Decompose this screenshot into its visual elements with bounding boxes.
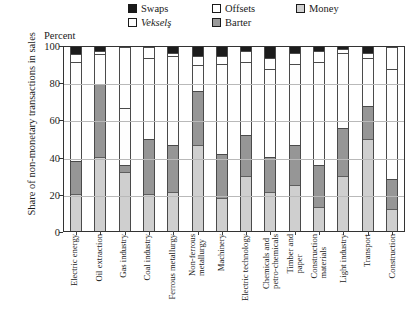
legend-item-barter: Barter [212, 16, 296, 29]
bar-segment-swaps [71, 47, 81, 54]
bar-segment-offsets [387, 47, 397, 69]
bar-slot [64, 47, 88, 231]
x-axis-category-label: Timber andpaper [286, 234, 305, 274]
grid-line [64, 196, 404, 197]
bar-segment-veksels [144, 58, 154, 139]
stacked-bar[interactable] [119, 47, 131, 231]
stacked-bar[interactable] [143, 47, 155, 231]
x-label-cell: Oil extraction [87, 234, 111, 322]
x-label-cell: Coal industry [136, 234, 160, 322]
x-axis-category-label: Constructionmaterials [310, 234, 329, 278]
bar-segment-veksels [387, 69, 397, 179]
bar-segment-veksels [168, 56, 178, 144]
bar-segment-money [363, 139, 373, 231]
x-axis-category-label: Ferrous metallurgy [168, 234, 177, 299]
legend-swatch-barter [212, 18, 221, 27]
x-axis-category-label: Transport [364, 234, 373, 267]
bar-segment-money [193, 145, 203, 231]
bar-segment-barter [120, 165, 130, 172]
x-label-cell: Constructionmaterials [307, 234, 331, 322]
legend-item-offsets: Offsets [212, 2, 296, 15]
bar-segment-veksels [241, 62, 251, 136]
x-label-cell: Electric energy [63, 234, 87, 322]
stacked-bar[interactable] [337, 47, 349, 231]
x-label-cell: Construction [380, 234, 404, 322]
legend-swatch-offsets [212, 4, 221, 13]
legend-row-2: Vekselş Barter [128, 16, 408, 29]
bar-segment-veksels [120, 108, 130, 165]
stacked-bar[interactable] [94, 47, 106, 231]
x-label-cell: Chemicals andpetro-chemicals [258, 234, 282, 322]
y-axis-tick-label: 100 [44, 41, 60, 52]
stacked-bar[interactable] [264, 47, 276, 231]
bar-segment-barter [144, 139, 154, 194]
bar-segment-swaps [265, 47, 275, 58]
x-axis-category-label: Oil extraction [95, 234, 104, 282]
bar-segment-offsets [290, 53, 300, 64]
x-axis-category-label: Gas industry [119, 234, 128, 278]
stacked-bar[interactable] [313, 47, 325, 231]
legend-label-veksels: Vekselş [141, 16, 171, 29]
x-axis-category-label-line: petro-chemicals [271, 234, 280, 289]
legend-swatch-money [296, 4, 305, 13]
bar-segment-veksels [95, 54, 105, 83]
bar-slot [355, 47, 379, 231]
bar-segment-money [168, 192, 178, 231]
bar-segment-veksels [193, 65, 203, 91]
bars-container [64, 47, 404, 231]
bar-slot [307, 47, 331, 231]
bar-segment-barter [338, 128, 348, 176]
stacked-bar[interactable] [386, 47, 398, 231]
x-label-cell: Electric technology [234, 234, 258, 322]
bar-segment-barter [387, 179, 397, 208]
x-axis-category-labels: Electric energyOil extractionGas industr… [63, 234, 405, 322]
legend-label-barter: Barter [225, 16, 251, 29]
stacked-bar[interactable] [240, 47, 252, 231]
x-axis-category-label: Construction [388, 234, 397, 278]
bar-segment-swaps [193, 47, 203, 56]
chart-legend: Swaps Offsets Money Vekselş Barter [128, 2, 408, 29]
plot-area [63, 46, 405, 232]
grid-line [64, 121, 404, 122]
x-axis-category-label-line: paper [295, 234, 304, 274]
y-axis-tick [59, 232, 63, 233]
bar-segment-offsets [265, 58, 275, 69]
bar-segment-offsets [144, 47, 154, 58]
bar-segment-barter [290, 145, 300, 185]
bar-segment-money [290, 185, 300, 231]
y-axis-tick [59, 195, 63, 196]
x-axis-category-label-line: metallurgy [197, 234, 206, 276]
legend-item-swaps: Swaps [128, 2, 212, 15]
stacked-bar[interactable] [362, 47, 374, 231]
bar-slot [283, 47, 307, 231]
grid-line [64, 159, 404, 160]
bar-segment-barter [241, 135, 251, 175]
bar-slot [88, 47, 112, 231]
bar-segment-veksels [314, 62, 324, 165]
bar-segment-barter [314, 165, 324, 207]
bar-segment-money [217, 198, 227, 231]
bar-segment-veksels [71, 62, 81, 161]
bar-slot [185, 47, 209, 231]
x-axis-category-label: Non-ferrousmetallurgy [188, 234, 207, 276]
legend-item-money: Money [296, 2, 339, 15]
stacked-bar[interactable] [192, 47, 204, 231]
bar-segment-swaps [217, 47, 227, 56]
bar-slot [234, 47, 258, 231]
stacked-bar[interactable] [289, 47, 301, 231]
bar-slot [161, 47, 185, 231]
stacked-bar[interactable] [216, 47, 228, 231]
x-axis-category-label: Electric energy [71, 234, 80, 286]
bar-segment-money [71, 194, 81, 231]
bar-segment-money [387, 209, 397, 231]
bar-segment-offsets [120, 47, 130, 108]
stacked-bar[interactable] [167, 47, 179, 231]
y-axis-tick [59, 46, 63, 47]
bar-segment-offsets [314, 51, 324, 62]
bar-segment-barter [193, 91, 203, 144]
stacked-bar[interactable] [70, 47, 82, 231]
bar-slot [331, 47, 355, 231]
bar-segment-barter [71, 161, 81, 194]
legend-label-money: Money [309, 2, 339, 15]
bar-slot [137, 47, 161, 231]
